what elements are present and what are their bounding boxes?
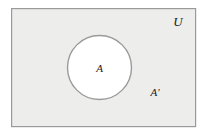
universe-label: U: [173, 14, 184, 29]
venn-diagram-figure: U A A′: [0, 0, 206, 135]
venn-diagram-canvas: U A A′: [0, 0, 206, 135]
complement-label: A′: [149, 86, 160, 98]
set-a-label: A: [95, 62, 103, 74]
